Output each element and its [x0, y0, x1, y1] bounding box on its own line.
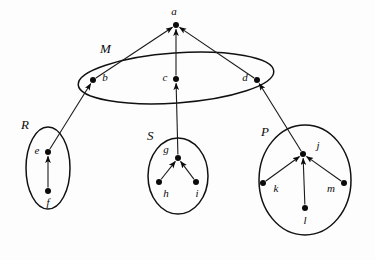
- node-j[interactable]: [300, 151, 306, 157]
- node-e[interactable]: [45, 149, 51, 155]
- node-d[interactable]: [254, 77, 260, 83]
- edge-k-j: [266, 156, 300, 180]
- node-label-i: i: [195, 187, 198, 199]
- node-label-b: b: [102, 71, 108, 83]
- node-label-f: f: [46, 196, 51, 208]
- edge-g-c: [176, 83, 178, 154]
- node-i[interactable]: [193, 179, 199, 185]
- node-label-c: c: [163, 71, 168, 83]
- node-m[interactable]: [341, 180, 347, 186]
- node-label-h: h: [163, 187, 169, 199]
- node-label-e: e: [35, 144, 40, 156]
- node-label-m: m: [327, 182, 335, 194]
- group-ellipse-layer: [26, 46, 351, 235]
- edge-i-g: [181, 161, 194, 179]
- edge-h-g: [161, 161, 175, 179]
- node-label-k: k: [274, 182, 280, 194]
- node-h[interactable]: [156, 179, 162, 185]
- edge-j-d: [259, 84, 301, 151]
- node-l[interactable]: [302, 205, 308, 211]
- node-label-g: g: [163, 143, 169, 155]
- node-a[interactable]: [173, 22, 179, 28]
- edge-e-b: [50, 84, 91, 149]
- label-layer: MRSPabcdefghijklm: [20, 5, 335, 226]
- node-layer: [45, 22, 347, 211]
- node-k[interactable]: [260, 180, 266, 186]
- group-label-m: M: [99, 41, 112, 56]
- group-label-s: S: [147, 128, 154, 143]
- node-label-d: d: [242, 71, 248, 83]
- node-label-a: a: [171, 5, 177, 17]
- node-f[interactable]: [45, 188, 51, 194]
- node-label-j: j: [314, 139, 319, 151]
- group-label-p: P: [260, 124, 269, 139]
- edge-l-j: [303, 158, 305, 204]
- edge-layer: [48, 27, 341, 204]
- edge-m-j: [306, 156, 341, 181]
- node-g[interactable]: [175, 155, 181, 161]
- diagram-canvas: MRSPabcdefghijklm: [0, 0, 375, 260]
- cluster-digraph: MRSPabcdefghijklm: [0, 0, 375, 260]
- node-b[interactable]: [90, 77, 96, 83]
- node-c[interactable]: [173, 76, 179, 82]
- group-label-r: R: [20, 117, 29, 132]
- node-label-l: l: [303, 214, 306, 226]
